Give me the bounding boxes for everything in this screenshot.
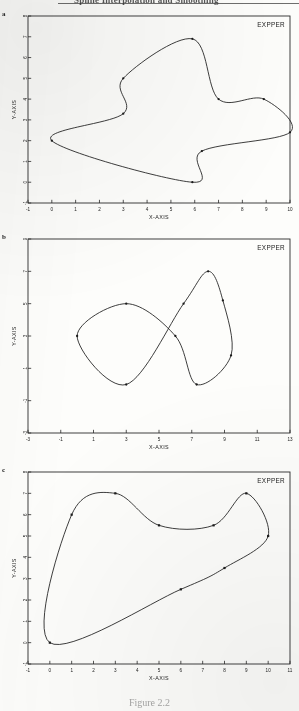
y-tick-label: 4 [23,97,28,100]
x-axis-title: X-AXIS [149,675,169,681]
plot-panel-c: c -101234567891011-1012345678X-AXISY-AXI… [0,466,299,694]
data-point-marker [174,335,176,337]
x-tick-label: 6 [180,668,183,673]
plot-panel-b: b -3-1135791113-3-113579X-AXISY-AXISEXPP… [0,233,299,465]
y-tick-label: 3 [23,334,28,337]
plot-panel-a: a -1012345678910-1012345678X-AXISY-AXISE… [0,10,299,232]
data-point-marker [201,150,203,152]
data-point-marker [180,588,182,590]
data-point-marker [217,98,219,100]
x-axis-title: X-AXIS [149,444,169,450]
y-tick-label: 3 [23,118,28,121]
x-tick-label: 4 [136,668,139,673]
data-point-marker [122,113,124,115]
y-tick-label: 1 [23,160,28,163]
x-tick-label: -1 [26,668,31,673]
x-tick-label: 10 [287,207,293,212]
y-tick-label: 4 [23,556,28,559]
y-tick-label: 2 [23,598,28,601]
data-point-marker [76,335,78,337]
running-head: Spline Interpolation and Smoothing [74,0,299,8]
y-tick-label: -3 [23,431,28,436]
legend-label: EXPPER [257,244,285,251]
data-point-marker [289,131,291,133]
x-tick-label: 2 [98,207,101,212]
x-tick-label: 3 [114,668,117,673]
y-axis-title: Y-AXIS [11,326,17,346]
data-point-marker [263,98,265,100]
data-point-marker [158,524,160,526]
x-tick-label: 6 [193,207,196,212]
plot-frame [28,16,290,203]
y-tick-label: 1 [23,620,28,623]
data-point-marker [49,642,51,644]
y-tick-label: -1 [23,201,28,206]
x-tick-label: 13 [287,437,293,442]
x-tick-label: -3 [26,437,31,442]
x-tick-label: -1 [26,207,31,212]
y-tick-label: 7 [23,35,28,38]
x-tick-label: 1 [92,437,95,442]
data-point-marker [222,299,224,301]
data-point-marker [51,140,53,142]
y-tick-label: 7 [23,270,28,273]
data-point-marker [125,303,127,305]
x-tick-label: 7 [217,207,220,212]
y-axis-title: Y-AXIS [11,558,17,578]
x-tick-label: 8 [223,668,226,673]
data-point-marker [114,492,116,494]
figure-caption: Figure 2.2 [0,697,299,711]
data-point-marker [182,303,184,305]
y-tick-label: -1 [23,398,28,403]
data-point-marker [125,383,127,385]
plot-a-canvas: -1012345678910-1012345678X-AXISY-AXISEXP… [0,10,299,232]
y-tick-label: 2 [23,139,28,142]
data-point-marker [212,524,214,526]
x-tick-label: 4 [146,207,149,212]
x-tick-label: 8 [241,207,244,212]
x-tick-label: 0 [51,207,54,212]
y-tick-label: 9 [23,237,28,240]
x-tick-label: 5 [158,668,161,673]
plot-frame [28,472,290,664]
y-tick-label: 8 [23,470,28,473]
y-tick-label: 0 [23,641,28,644]
x-tick-label: 5 [158,437,161,442]
x-tick-label: 1 [70,668,73,673]
data-point-marker [191,181,193,183]
data-point-marker [207,270,209,272]
y-tick-label: 6 [23,513,28,516]
scanned-page: Spline Interpolation and Smoothing a -10… [0,0,299,711]
y-tick-label: 7 [23,492,28,495]
y-tick-label: 5 [23,77,28,80]
data-curve [51,39,293,183]
x-tick-label: 3 [125,437,128,442]
plot-c-canvas: -101234567891011-1012345678X-AXISY-AXISE… [0,466,299,694]
data-point-marker [267,535,269,537]
x-tick-label: 5 [170,207,173,212]
x-tick-label: 9 [245,668,248,673]
x-tick-label: 9 [265,207,268,212]
y-tick-label: -1 [23,662,28,667]
y-tick-label: 0 [23,181,28,184]
data-point-marker [122,77,124,79]
x-tick-label: -1 [59,437,64,442]
y-tick-label: 5 [23,534,28,537]
x-tick-label: 2 [92,668,95,673]
x-tick-label: 1 [74,207,77,212]
legend-label: EXPPER [257,477,285,484]
x-tick-label: 7 [190,437,193,442]
data-point-marker [191,38,193,40]
data-point-marker [71,514,73,516]
x-tick-label: 9 [223,437,226,442]
data-point-marker [230,354,232,356]
y-axis-title: Y-AXIS [11,100,17,120]
x-tick-label: 10 [266,668,272,673]
data-curve [77,271,232,385]
x-tick-label: 11 [255,437,260,442]
data-point-marker [245,492,247,494]
y-tick-label: 1 [23,367,28,370]
y-tick-label: 8 [23,14,28,17]
data-point-marker [223,567,225,569]
x-axis-title: X-AXIS [149,214,169,220]
